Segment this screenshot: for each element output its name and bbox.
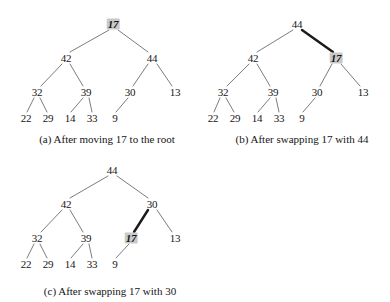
tree-edge bbox=[257, 64, 270, 86]
tree-node: 33 bbox=[87, 259, 98, 270]
tree-node: 39 bbox=[81, 87, 92, 98]
tree-node: 14 bbox=[252, 113, 263, 124]
tree-edge bbox=[27, 98, 34, 112]
tree-edge bbox=[41, 210, 62, 232]
tree-node: 13 bbox=[170, 87, 181, 98]
tree-edge bbox=[257, 30, 293, 52]
tree-node-highlighted: 17 bbox=[125, 233, 138, 244]
tree-edge bbox=[118, 30, 148, 52]
tree-node: 32 bbox=[32, 233, 43, 244]
tree-edge-highlighted bbox=[134, 210, 148, 232]
tree-node: 44 bbox=[147, 53, 158, 64]
tree-edge bbox=[41, 64, 62, 86]
tree-node: 29 bbox=[230, 113, 241, 124]
tree-panel-a: 17424432393013222914339(a) After moving … bbox=[0, 0, 195, 150]
tree-node: 42 bbox=[248, 53, 259, 64]
tree-edge bbox=[117, 176, 148, 198]
tree-edge bbox=[40, 98, 47, 112]
tree-edge bbox=[89, 244, 92, 258]
tree-edge bbox=[70, 176, 108, 198]
tree-edge bbox=[214, 98, 220, 112]
panel-caption-a: (a) After moving 17 to the root bbox=[39, 134, 175, 145]
tree-node: 39 bbox=[81, 233, 92, 244]
tree-edge bbox=[341, 64, 360, 86]
tree-edge bbox=[116, 98, 128, 112]
tree-node: 30 bbox=[312, 87, 323, 98]
tree-edge bbox=[70, 30, 109, 52]
tree-edge bbox=[157, 64, 172, 86]
tree-edge-highlighted bbox=[302, 30, 333, 52]
tree-node: 33 bbox=[274, 113, 285, 124]
tree-edge bbox=[70, 64, 83, 86]
tree-node: 14 bbox=[65, 113, 76, 124]
tree-edge bbox=[133, 64, 148, 86]
tree-node: 32 bbox=[218, 87, 229, 98]
tree-node: 33 bbox=[87, 113, 98, 124]
tree-panel-c: 44423032391713222914339(c) After swappin… bbox=[0, 152, 220, 302]
tree-edges-a bbox=[0, 0, 195, 150]
tree-edge bbox=[70, 210, 83, 232]
tree-edge bbox=[116, 244, 129, 258]
tree-edge bbox=[226, 98, 234, 112]
tree-edge bbox=[276, 98, 279, 112]
tree-edge bbox=[320, 64, 332, 86]
tree-node: 44 bbox=[107, 165, 118, 176]
tree-edge bbox=[258, 98, 270, 112]
tree-node-highlighted: 17 bbox=[330, 53, 343, 64]
tree-node: 13 bbox=[170, 233, 181, 244]
tree-node: 29 bbox=[43, 259, 54, 270]
tree-node: 30 bbox=[125, 87, 136, 98]
tree-edge bbox=[157, 210, 172, 232]
tree-node: 22 bbox=[208, 113, 219, 124]
tree-node: 30 bbox=[147, 199, 158, 210]
tree-node: 39 bbox=[268, 87, 279, 98]
tree-node: 9 bbox=[299, 113, 304, 124]
tree-node: 42 bbox=[61, 199, 72, 210]
tree-edge bbox=[40, 244, 47, 258]
panel-caption-b: (b) After swapping 17 with 44 bbox=[236, 134, 369, 145]
tree-node: 13 bbox=[358, 87, 369, 98]
tree-node: 9 bbox=[112, 113, 117, 124]
tree-node: 42 bbox=[61, 53, 72, 64]
tree-edge bbox=[71, 244, 83, 258]
tree-node: 32 bbox=[32, 87, 43, 98]
tree-node: 9 bbox=[112, 259, 117, 270]
tree-edge bbox=[303, 98, 315, 112]
tree-node: 14 bbox=[65, 259, 76, 270]
tree-edge bbox=[27, 244, 34, 258]
tree-edge bbox=[89, 98, 92, 112]
tree-node: 22 bbox=[21, 113, 32, 124]
tree-node: 22 bbox=[21, 259, 32, 270]
tree-panel-b: 44421732393013222914339(b) After swappin… bbox=[195, 0, 390, 150]
tree-node: 29 bbox=[43, 113, 54, 124]
panel-caption-c: (c) After swapping 17 with 30 bbox=[44, 286, 176, 297]
tree-node: 44 bbox=[292, 19, 303, 30]
tree-node-highlighted: 17 bbox=[107, 19, 120, 30]
tree-edge bbox=[71, 98, 83, 112]
tree-edge bbox=[227, 64, 249, 86]
